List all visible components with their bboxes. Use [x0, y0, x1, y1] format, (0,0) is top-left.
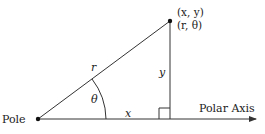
- pole-point: [36, 117, 40, 121]
- point-rect-label: (x, y): [177, 6, 204, 18]
- point-polar-label: (r, θ): [177, 19, 202, 31]
- polar-axis-label: Polar Axis: [199, 102, 255, 115]
- point-marker: [168, 19, 172, 23]
- right-angle-marker: [159, 108, 170, 119]
- polar-coordinates-diagram: Pole Polar Axis (x, y) (r, θ) r y x θ: [0, 0, 265, 134]
- y-label: y: [158, 66, 166, 79]
- x-label: x: [125, 107, 132, 120]
- pole-label: Pole: [2, 113, 26, 126]
- theta-label: θ: [91, 93, 98, 106]
- r-label: r: [91, 61, 97, 74]
